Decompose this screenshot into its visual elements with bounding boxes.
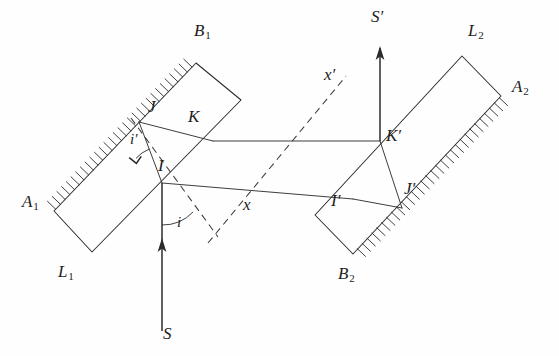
label-point-J-prime: J′: [404, 180, 415, 197]
label-axis-x-prime: x′: [324, 66, 335, 83]
label-A1: A1: [22, 193, 39, 212]
label-output-S-prime: S′: [371, 8, 383, 25]
ray-paths: [139, 46, 402, 331]
label-B2: B2: [338, 265, 355, 284]
label-point-K: K: [188, 108, 199, 125]
diagram-canvas: [0, 0, 559, 356]
label-L1: L1: [58, 263, 74, 282]
label-source-S: S: [163, 325, 172, 342]
angle-arc-i-prime: [136, 149, 149, 158]
ray-J-to-K: [139, 122, 213, 141]
label-axis-x: x: [243, 196, 251, 213]
label-angle-i: i: [177, 215, 181, 230]
label-A2: A2: [512, 78, 529, 97]
optics-ray-diagram: A1 B1 L1 A2 B2 L2 I J K I′ J′ K′ S S′ x …: [0, 0, 559, 356]
ray-Jprime-to-Kprime: [380, 141, 402, 208]
label-point-I-prime: I′: [331, 192, 340, 209]
right-plate-body: [315, 56, 501, 254]
left-plate-group: [48, 59, 242, 252]
right-angle-marker: [129, 156, 141, 163]
left-plate-body: [54, 63, 241, 252]
label-point-I: I: [158, 157, 164, 174]
optical-axis-dashed: [208, 76, 346, 243]
left-plate-hatching: [48, 59, 193, 209]
label-point-J: J: [148, 98, 156, 115]
label-point-K-prime: K′: [386, 127, 401, 144]
label-angle-i-prime: i′: [130, 132, 137, 147]
label-L2: L2: [468, 22, 484, 41]
right-plate-group: [315, 56, 508, 256]
ray-I-to-Iprime: [162, 183, 353, 199]
ray-Iprime-to-Jprime: [353, 199, 402, 208]
label-B1: B1: [194, 22, 211, 41]
